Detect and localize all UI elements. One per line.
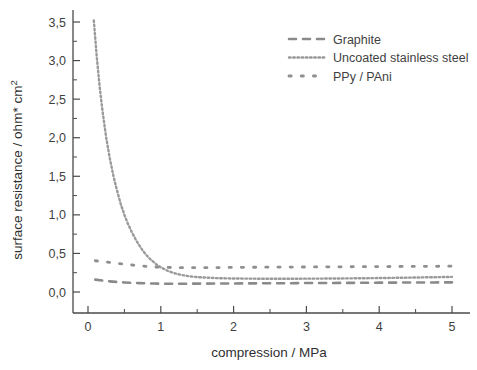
- x-axis-tick-label: 2: [230, 320, 237, 334]
- y-axis-title-text: surface resistance / ohm* cm: [10, 86, 25, 260]
- x-axis-tick-label: 5: [449, 320, 456, 334]
- legend-label: PPy / PAni: [333, 70, 392, 84]
- x-axis-title: compression / MPa: [211, 345, 327, 360]
- y-axis-tick-label: 1,5: [49, 170, 66, 184]
- legend-label: Uncoated stainless steel: [333, 51, 469, 65]
- legend-label: Graphite: [333, 33, 381, 47]
- y-axis-tick-label: 0,5: [49, 247, 66, 261]
- x-axis-tick-label: 4: [376, 320, 383, 334]
- chart-container: 012345 0,00,51,01,52,02,53,03,5 compress…: [0, 0, 477, 370]
- y-axis-title: surface resistance / ohm* cm2: [8, 80, 25, 259]
- x-axis-tick-label: 1: [157, 320, 164, 334]
- y-axis-tick-label: 2,0: [49, 131, 66, 145]
- y-axis-tick-label: 1,0: [49, 208, 66, 222]
- surface-resistance-line-chart: 012345 0,00,51,01,52,02,53,03,5 compress…: [0, 0, 477, 370]
- y-axis-tick-label: 3,0: [49, 54, 66, 68]
- y-axis-title-superscript: 2: [8, 80, 19, 85]
- y-axis-tick-label: 0,0: [49, 286, 66, 300]
- y-axis-tick-label: 3,5: [49, 16, 66, 30]
- svg-text:surface resistance / ohm* cm2: surface resistance / ohm* cm2: [8, 80, 25, 259]
- x-axis-tick-label: 3: [303, 320, 310, 334]
- x-axis-tick-label: 0: [85, 320, 92, 334]
- y-axis-tick-label: 2,5: [49, 93, 66, 107]
